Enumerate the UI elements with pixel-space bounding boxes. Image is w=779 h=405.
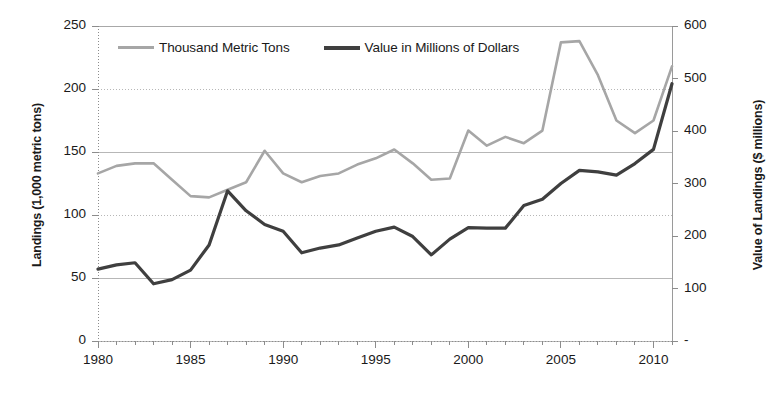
y-axis-left-tick-label: 200 — [42, 80, 86, 95]
legend-entry-landings: Thousand Metric Tons — [118, 40, 290, 55]
y-axis-right-tick-label: 400 — [684, 122, 730, 137]
y-axis-right-tick-label: 100 — [684, 280, 730, 295]
x-axis-tick-label: 1990 — [256, 352, 310, 367]
legend-swatch-landings — [118, 46, 154, 49]
y-axis-left-tick-label: 100 — [42, 206, 86, 221]
y-axis-left-tick-label: 150 — [42, 143, 86, 158]
plot-area — [0, 0, 779, 405]
legend-label-value: Value in Millions of Dollars — [365, 40, 520, 55]
y-axis-right-tick-label: 600 — [684, 17, 730, 32]
y-axis-right-tick-label: 500 — [684, 70, 730, 85]
x-axis-tick-label: 1980 — [71, 352, 125, 367]
legend-swatch-value — [324, 46, 360, 50]
chart-legend: Thousand Metric Tons Value in Millions o… — [118, 40, 519, 55]
series-line-landings — [98, 41, 672, 197]
x-axis-tick-label: 2005 — [534, 352, 588, 367]
y-axis-right-tick-label: 300 — [684, 175, 730, 190]
legend-label-landings: Thousand Metric Tons — [159, 40, 290, 55]
chart-figure: Landings (1,000 metric tons) Value of La… — [0, 0, 779, 405]
y-axis-right-tick-label: 200 — [684, 227, 730, 242]
legend-entry-value: Value in Millions of Dollars — [324, 40, 520, 55]
x-axis-tick-label: 1985 — [164, 352, 218, 367]
x-axis-tick-label: 2010 — [626, 352, 680, 367]
series-line-value — [98, 84, 672, 284]
x-axis-tick-label: 1995 — [349, 352, 403, 367]
x-axis-tick-label: 2000 — [441, 352, 495, 367]
y-axis-left-tick-label: 250 — [42, 17, 86, 32]
y-axis-right-tick-label: - — [684, 332, 730, 347]
y-axis-left-tick-label: 0 — [42, 332, 86, 347]
y-axis-left-tick-label: 50 — [42, 269, 86, 284]
